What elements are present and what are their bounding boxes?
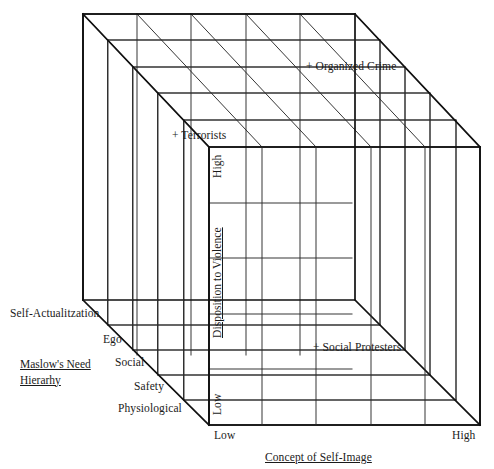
marker-social-protesters: + Social Protesters bbox=[313, 341, 401, 355]
marker-organized-crime: + Organized Crime bbox=[306, 60, 396, 74]
y-axis-high-label: High bbox=[211, 155, 225, 178]
cube-wireframe bbox=[0, 0, 494, 469]
y-axis-low-label: Low bbox=[211, 394, 225, 415]
z-axis-title: Maslow's Need Hierarhy bbox=[20, 357, 91, 388]
z-axis-level-physiological: Physiological bbox=[118, 402, 182, 416]
z-axis-level-ego: Ego bbox=[103, 333, 122, 347]
figure-canvas: + Organized Crime + Terrorists + Social … bbox=[0, 0, 494, 469]
x-axis-low-label: Low bbox=[214, 429, 235, 443]
top-face-depth-lines bbox=[137, 14, 425, 147]
z-axis-level-social: Social bbox=[115, 356, 144, 370]
z-axis-title-line2: Hierarhy bbox=[20, 373, 91, 389]
z-axis-level-safety: Safety bbox=[134, 380, 164, 394]
y-axis-title: Disposition to Violence bbox=[211, 227, 225, 338]
front-face-vertical-grid bbox=[262, 147, 425, 425]
z-axis-level-self-actualization: Self-Actualitzation bbox=[10, 307, 99, 321]
marker-terrorists: + Terrorists bbox=[172, 129, 226, 143]
x-axis-high-label: High bbox=[452, 429, 475, 443]
z-axis-title-line1: Maslow's Need bbox=[20, 357, 91, 373]
x-axis-title: Concept of Self-Image bbox=[265, 451, 372, 465]
